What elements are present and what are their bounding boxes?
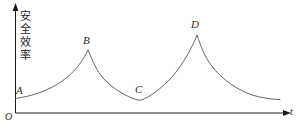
point-label-d: D — [191, 19, 199, 30]
chart-figure: 安全效率 O t A B C D — [0, 0, 298, 131]
y-axis-title: 安全效率 — [18, 10, 32, 62]
point-label-a: A — [16, 85, 23, 96]
line-chart-plot — [0, 0, 298, 131]
point-label-c: C — [135, 84, 142, 95]
point-label-b: B — [83, 35, 90, 46]
x-axis-label: t — [290, 107, 293, 117]
safety-efficiency-curve — [16, 35, 281, 100]
origin-label: O — [5, 112, 12, 122]
